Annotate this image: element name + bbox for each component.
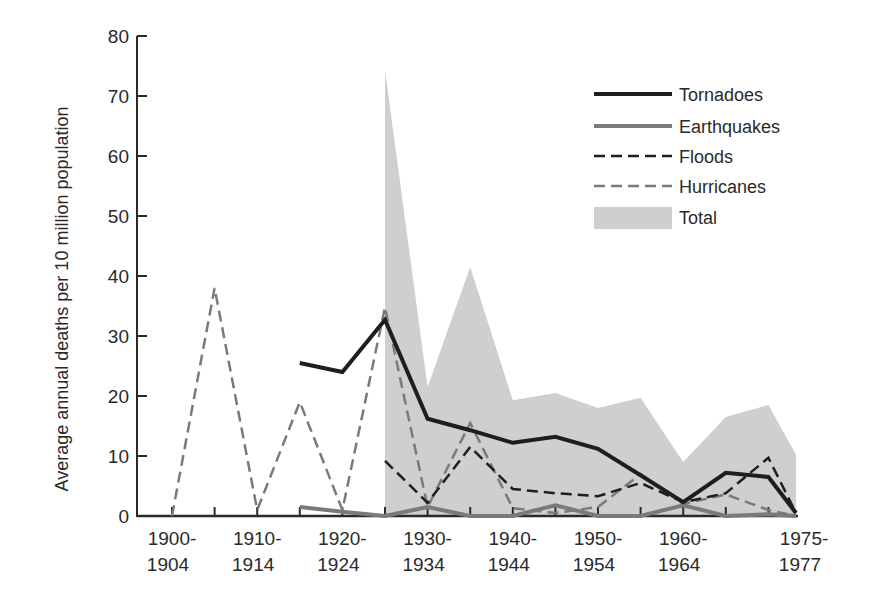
legend-item-tornadoes: Tornadoes bbox=[594, 85, 763, 105]
x-tick-label: 1900- bbox=[148, 528, 197, 549]
legend-item-total: Total bbox=[594, 207, 717, 229]
legend-label: Tornadoes bbox=[679, 85, 763, 105]
x-tick-label: 1914 bbox=[232, 554, 275, 575]
y-tick-label: 80 bbox=[108, 26, 129, 47]
x-tick-label: 1977 bbox=[779, 554, 821, 575]
chart: 010203040506070801900-19041910-19141920-… bbox=[0, 0, 873, 603]
y-tick-label: 40 bbox=[108, 266, 129, 287]
x-tick-label: 1954 bbox=[573, 554, 616, 575]
y-tick-label: 10 bbox=[108, 446, 129, 467]
legend: TornadoesEarthquakesFloodsHurricanesTota… bbox=[594, 85, 780, 229]
y-tick-label: 50 bbox=[108, 206, 129, 227]
legend-item-floods: Floods bbox=[594, 147, 733, 167]
y-tick-label: 20 bbox=[108, 386, 129, 407]
legend-label: Floods bbox=[679, 147, 733, 167]
x-tick-label: 1940- bbox=[488, 528, 537, 549]
total-area-fill bbox=[385, 70, 796, 516]
x-tick-label: 1944 bbox=[488, 554, 531, 575]
legend-item-hurricanes: Hurricanes bbox=[594, 177, 766, 197]
legend-label: Total bbox=[679, 208, 717, 228]
legend-label: Hurricanes bbox=[679, 177, 766, 197]
x-tick-label: 1920- bbox=[318, 528, 367, 549]
total-area bbox=[385, 70, 796, 516]
y-tick-label: 0 bbox=[118, 506, 129, 527]
x-tick-label: 1930- bbox=[403, 528, 452, 549]
y-tick-label: 70 bbox=[108, 86, 129, 107]
x-tick-label: 1904 bbox=[147, 554, 190, 575]
legend-item-earthquakes: Earthquakes bbox=[594, 117, 780, 137]
x-tick-label: 1964 bbox=[658, 554, 701, 575]
x-tick-label: 1960- bbox=[659, 528, 708, 549]
y-tick-label: 60 bbox=[108, 146, 129, 167]
x-tick-label: 1950- bbox=[574, 528, 623, 549]
x-tick-label: 1975- bbox=[780, 528, 829, 549]
legend-label: Earthquakes bbox=[679, 117, 780, 137]
y-axis-label: Average annual deaths per 10 million pop… bbox=[52, 107, 72, 492]
x-tick-label: 1934 bbox=[402, 554, 445, 575]
x-tick-label: 1910- bbox=[233, 528, 282, 549]
legend-swatch bbox=[594, 207, 672, 229]
y-tick-label: 30 bbox=[108, 326, 129, 347]
x-tick-label: 1924 bbox=[317, 554, 360, 575]
